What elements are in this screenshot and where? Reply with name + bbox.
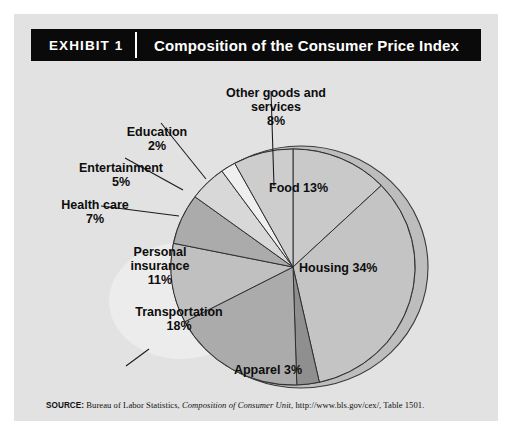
source-text-after: , http://www.bls.gov/cex/, Table 1501. <box>291 400 424 410</box>
source-label: SOURCE: <box>46 401 84 410</box>
label-other-goods-line1: Other goods and <box>226 86 326 100</box>
exhibit-header: EXHIBIT 1 Composition of the Consumer Pr… <box>31 29 481 61</box>
label-housing: Housing 34% <box>299 261 378 275</box>
label-other-goods-line2: services <box>251 100 301 114</box>
label-transportation-percent: 18% <box>166 319 191 333</box>
label-food: Food 13% <box>269 181 328 195</box>
label-other-goods-percent: 8% <box>267 114 285 128</box>
label-health-care-percent: 7% <box>86 212 104 226</box>
leader-line-apparel <box>126 349 149 366</box>
pie-chart: Other goods and services 8% Education 2%… <box>31 66 481 391</box>
label-transportation: Transportation <box>135 305 223 319</box>
label-personal-insurance-line2: insurance <box>130 259 189 273</box>
label-personal-insurance-line1: Personal <box>134 245 187 259</box>
exhibit-title: Composition of the Consumer Price Index <box>137 37 459 54</box>
label-entertainment-percent: 5% <box>112 175 130 189</box>
label-entertainment: Entertainment <box>79 161 164 175</box>
label-apparel: Apparel 3% <box>234 363 302 377</box>
source-work-title: Composition of Consumer Unit <box>182 400 291 410</box>
exhibit-card: EXHIBIT 1 Composition of the Consumer Pr… <box>14 14 498 421</box>
pie-chart-container: Other goods and services 8% Education 2%… <box>31 66 481 391</box>
label-education-percent: 2% <box>148 139 166 153</box>
source-text-before: Bureau of Labor Statistics, <box>84 400 182 410</box>
label-personal-insurance-percent: 11% <box>148 273 172 287</box>
source-line: SOURCE: Bureau of Labor Statistics, Comp… <box>46 400 496 410</box>
label-health-care: Health care <box>61 198 128 212</box>
exhibit-number-label: EXHIBIT 1 <box>31 38 135 53</box>
label-education: Education <box>127 125 187 139</box>
